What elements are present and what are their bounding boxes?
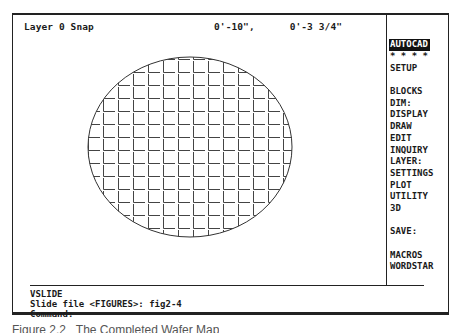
menu-item-plot[interactable]: PLOT [390, 180, 446, 192]
autocad-screen: Layer 0 Snap 0'-10", 0'-3 3/4" AUTOCAD* … [12, 13, 449, 315]
figure-caption: Figure 2.2 The Completed Wafer Map [12, 323, 219, 333]
menu-item-settings[interactable]: SETTINGS [390, 168, 446, 180]
screen-menu-divider [386, 15, 387, 285]
menu-item-inquiry[interactable]: INQUIRY [390, 145, 446, 157]
menu-item-draw[interactable]: DRAW [390, 121, 446, 133]
menu-item-save[interactable]: SAVE: [390, 226, 446, 238]
menu-item-blank [390, 238, 446, 250]
menu-item-separator[interactable]: * * * * [390, 51, 446, 63]
menu-item-macros[interactable]: MACROS [390, 250, 446, 262]
menu-item-setup[interactable]: SETUP [390, 63, 446, 75]
menu-item-wordstar[interactable]: WORDSTAR [390, 261, 446, 273]
menu-item-edit[interactable]: EDIT [390, 133, 446, 145]
command-prompt[interactable]: Command: [30, 309, 182, 319]
menu-item-display[interactable]: DISPLAY [390, 109, 446, 121]
command-prompt-area[interactable]: VSLIDE Slide file <FIGURES>: fig2-4 Comm… [30, 289, 182, 319]
menu-item-layer[interactable]: LAYER: [390, 156, 446, 168]
command-area-divider [30, 285, 424, 286]
menu-item-3d[interactable]: 3D [390, 203, 446, 215]
screen-menu: AUTOCAD* * * *SETUPBLOCKSDIM:DISPLAYDRAW… [390, 32, 446, 273]
menu-item-blocks[interactable]: BLOCKS [390, 86, 446, 98]
command-history-line: Slide file <FIGURES>: fig2-4 [30, 299, 182, 309]
menu-item-blank [390, 215, 446, 227]
menu-item-blank [390, 74, 446, 86]
menu-item-utility[interactable]: UTILITY [390, 191, 446, 203]
menu-item-dim[interactable]: DIM: [390, 98, 446, 110]
command-history-line: VSLIDE [30, 289, 182, 299]
wafer-grid-hatch [74, 48, 311, 255]
drawing-area[interactable] [13, 15, 385, 283]
menu-item-autocad[interactable]: AUTOCAD [389, 39, 430, 51]
